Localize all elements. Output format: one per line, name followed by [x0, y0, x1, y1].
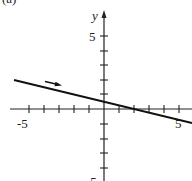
panel-label: (a)	[2, 0, 16, 6]
x-tick-label-neg5: -5	[17, 116, 28, 131]
y-axis-label: y	[90, 8, 98, 23]
direction-arrowhead-icon	[55, 82, 63, 86]
chart-canvas: (a) -5 5 5 -5 y	[0, 0, 192, 181]
data-line	[14, 80, 192, 123]
y-axis-arrow-icon	[102, 10, 107, 18]
y-tick-label-neg5: -5	[86, 174, 97, 181]
y-tick-label-5: 5	[89, 29, 96, 44]
